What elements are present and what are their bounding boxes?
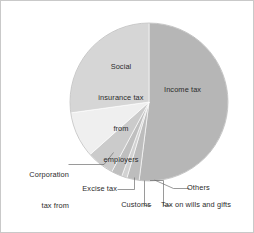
slice-label-social-line-2: insurance tax bbox=[85, 93, 157, 103]
leader-line-others bbox=[155, 180, 190, 189]
slice-label-corporation-tax: Corporation tax from companies bbox=[7, 149, 69, 233]
slice-label-social-line-4: employers bbox=[85, 155, 157, 165]
slice-label-social-insurance: Social insurance tax from employers bbox=[85, 41, 157, 187]
slice-label-social-line-1: Social bbox=[85, 62, 157, 72]
slice-label-others: Others bbox=[187, 183, 227, 193]
slice-label-excise-tax: Excise tax bbox=[69, 184, 117, 194]
slice-label-corporation-line-2: tax from bbox=[7, 201, 69, 211]
slice-label-corporation-line-1: Corporation bbox=[7, 170, 69, 180]
slice-label-corporation-line-3: companies bbox=[7, 232, 69, 233]
slice-label-social-line-3: from bbox=[85, 124, 157, 134]
slice-label-income-tax: Income tax bbox=[164, 85, 220, 95]
slice-label-customs: Customs bbox=[111, 200, 151, 210]
slice-label-wills-and-gifts: Tax on wills and gifts bbox=[161, 200, 253, 210]
chart-page: Social insurance tax from employers Inco… bbox=[0, 0, 254, 233]
